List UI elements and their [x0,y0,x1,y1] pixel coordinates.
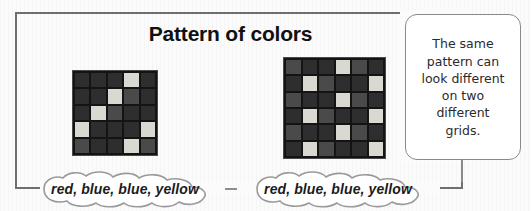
grid-cell [91,122,105,136]
callout-note: The same pattern can look different on t… [405,14,521,160]
grid-cell [286,142,301,156]
grid-cell [286,125,301,139]
grid-cell [286,93,301,107]
grid-cell [108,122,122,136]
grid-cell [369,142,384,156]
grid-cell [319,93,334,107]
grid-cell [369,109,384,123]
grid-cell [352,109,367,123]
grid-cell [124,89,138,103]
grid-cell [141,139,155,153]
grid-cell [75,89,89,103]
cloud-label-right: red, blue, blue, yellow [233,170,443,208]
grid-cell [286,76,301,90]
grid-cell [319,76,334,90]
grid-cell [336,93,351,107]
grid-cell [91,139,105,153]
grid-cell [303,109,318,123]
grid-cell [336,142,351,156]
grid-cell [141,89,155,103]
grid-cell [352,125,367,139]
grid-cell [369,93,384,107]
grid-cell [286,60,301,74]
grid-cell [124,73,138,87]
color-grid-right [283,57,386,159]
callout-stem [461,160,463,182]
cloud-label-right-text: red, blue, blue, yellow [264,181,412,197]
grid-cell [369,125,384,139]
grid-cell [75,122,89,136]
grid-cell [91,89,105,103]
grid-cell [303,60,318,74]
grid-cell [319,142,334,156]
cloud-label-left: red, blue, blue, yellow [20,170,230,208]
grid-cell [124,106,138,120]
grid-cell [141,106,155,120]
grid-cell [75,139,89,153]
grid-cell [303,76,318,90]
grid-cell [303,142,318,156]
grid-cell [141,122,155,136]
cloud-label-left-text: red, blue, blue, yellow [51,181,199,197]
grid-cell [319,60,334,74]
grid-cell [352,76,367,90]
grid-cell [336,109,351,123]
grid-cell [141,73,155,87]
grid-cell [124,122,138,136]
grid-cell [336,60,351,74]
grid-cell [352,60,367,74]
grid-cell [303,93,318,107]
grid-cell [369,60,384,74]
grid-cell [303,125,318,139]
grid-cell [75,73,89,87]
grid-cell [336,125,351,139]
grid-cell [108,139,122,153]
grid-cell [369,76,384,90]
grid-cell [319,109,334,123]
color-grid-left [72,70,158,156]
grid-cell [75,106,89,120]
grid-cell [352,142,367,156]
grid-cell [91,73,105,87]
grid-cell [336,76,351,90]
grid-cell [352,93,367,107]
grid-cell [124,139,138,153]
grid-cell [286,109,301,123]
grid-cell [108,73,122,87]
grid-cell [108,89,122,103]
grid-cell [108,106,122,120]
callout-note-text: The same pattern can look different on t… [421,35,504,139]
grid-cell [91,106,105,120]
grid-cell [319,125,334,139]
